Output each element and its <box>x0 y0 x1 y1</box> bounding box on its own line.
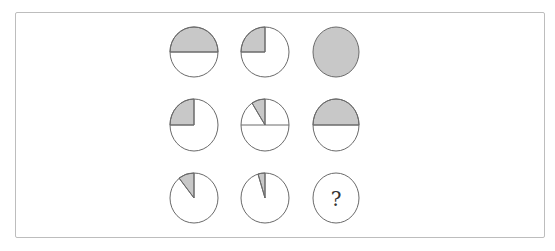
cell-r3c1 <box>170 173 218 223</box>
cell-r1c2 <box>241 27 289 77</box>
cell-r2c1 <box>170 99 218 151</box>
puzzle-grid: ? <box>0 0 555 251</box>
cell-r3c2 <box>241 173 289 223</box>
cell-r2c2 <box>241 99 289 151</box>
question-mark: ? <box>331 187 342 211</box>
cell-r2c3 <box>313 99 359 151</box>
cell-r1c1 <box>170 27 218 77</box>
cell-r1c3 <box>313 27 359 77</box>
